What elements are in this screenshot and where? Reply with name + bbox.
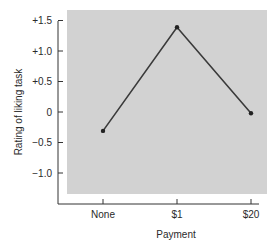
y-tick-label: 0 [46, 107, 52, 118]
y-tick-label: +0.5 [32, 76, 52, 87]
y-tick-label: +1.0 [32, 46, 52, 57]
line-chart: +1.5+1.0+0.50−0.5−1.0 None$1$20 Rating o… [0, 0, 279, 246]
y-axis-title: Rating of liking task [13, 68, 24, 156]
data-point [175, 25, 179, 29]
y-tick-label: −0.5 [32, 137, 52, 148]
x-tick-label: $20 [243, 209, 260, 220]
x-tick-label: None [91, 209, 115, 220]
x-axis-title: Payment [156, 229, 196, 240]
x-tick-label: $1 [171, 209, 183, 220]
plot-background [67, 10, 267, 194]
y-axis: +1.5+1.0+0.50−0.5−1.0 [32, 15, 63, 204]
data-point [101, 129, 105, 133]
x-axis: None$1$20 [58, 199, 260, 220]
y-tick-label: −1.0 [32, 168, 52, 179]
y-tick-label: +1.5 [32, 15, 52, 26]
data-point [249, 111, 253, 115]
